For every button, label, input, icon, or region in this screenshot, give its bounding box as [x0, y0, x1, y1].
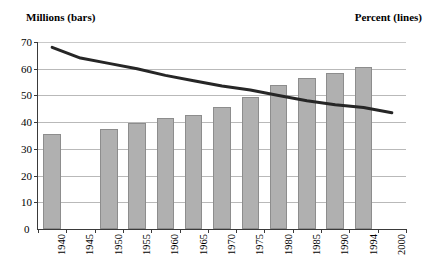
bar	[326, 73, 344, 229]
y-axis-tick-mark	[34, 42, 38, 43]
x-axis-tick-mark	[208, 229, 209, 233]
x-axis-tick-label: 1945	[84, 234, 95, 255]
gridline	[38, 69, 406, 70]
gridline	[38, 42, 406, 43]
bar	[128, 123, 146, 229]
x-axis-tick-mark	[378, 229, 379, 233]
y-axis-tick-label: 30	[21, 143, 32, 154]
bar	[185, 115, 203, 229]
y-axis-tick-label: 70	[21, 37, 32, 48]
x-axis-tick-mark	[66, 229, 67, 233]
x-axis-tick-mark	[151, 229, 152, 233]
bar	[213, 107, 231, 229]
x-axis-tick-mark	[321, 229, 322, 233]
y-axis-tick-label: 50	[21, 90, 32, 101]
x-axis-tick-label: 1985	[311, 234, 322, 255]
x-axis-tick-mark	[293, 229, 294, 233]
y-axis-zero-label: 0	[24, 223, 30, 235]
x-axis-tick-mark	[406, 229, 407, 233]
y-axis-title-right: Percent (lines)	[355, 11, 422, 23]
y-axis-tick-mark	[34, 149, 38, 150]
y-axis-tick-label: 40	[21, 117, 32, 128]
x-axis-tick-label: 1970	[226, 234, 237, 255]
y-axis-tick-mark	[34, 122, 38, 123]
x-axis-tick-mark	[38, 229, 39, 233]
x-axis-tick-mark	[95, 229, 96, 233]
bar	[100, 129, 118, 229]
y-axis-title-left: Millions (bars)	[26, 11, 95, 23]
y-axis-tick-mark	[34, 69, 38, 70]
y-axis-tick-label: 20	[21, 170, 32, 181]
x-axis-tick-label: 1975	[254, 234, 265, 255]
x-axis-tick-mark	[236, 229, 237, 233]
chart-container: Millions (bars) Percent (lines) 10203040…	[0, 0, 434, 277]
bar	[298, 78, 316, 229]
y-axis-tick-label: 60	[21, 63, 32, 74]
x-axis-tick-label: 1955	[141, 234, 152, 255]
x-axis-tick-label: 1940	[56, 234, 67, 255]
x-axis-tick-label: 2000	[396, 234, 407, 255]
y-axis-tick-label: 10	[21, 197, 32, 208]
x-axis-tick-mark	[123, 229, 124, 233]
x-axis-tick-label: 1950	[113, 234, 124, 255]
x-axis-tick-label: 1980	[283, 234, 294, 255]
plot-area: 10203040506070 1940194519501955196019651…	[37, 42, 406, 230]
x-axis-tick-label: 1994	[368, 234, 379, 255]
gridline	[38, 95, 406, 96]
bar	[242, 97, 260, 229]
bar	[157, 118, 175, 229]
x-axis-tick-mark	[349, 229, 350, 233]
x-axis-tick-mark	[180, 229, 181, 233]
x-axis-tick-label: 1965	[198, 234, 209, 255]
plot-inner: 10203040506070 1940194519501955196019651…	[38, 42, 406, 229]
bar	[43, 134, 61, 229]
x-axis-tick-mark	[264, 229, 265, 233]
bar	[355, 67, 373, 229]
bar	[270, 85, 288, 229]
x-axis-tick-label: 1960	[169, 234, 180, 255]
y-axis-tick-mark	[34, 176, 38, 177]
x-axis-tick-label: 1990	[339, 234, 350, 255]
y-axis-tick-mark	[34, 95, 38, 96]
y-axis-tick-mark	[34, 202, 38, 203]
